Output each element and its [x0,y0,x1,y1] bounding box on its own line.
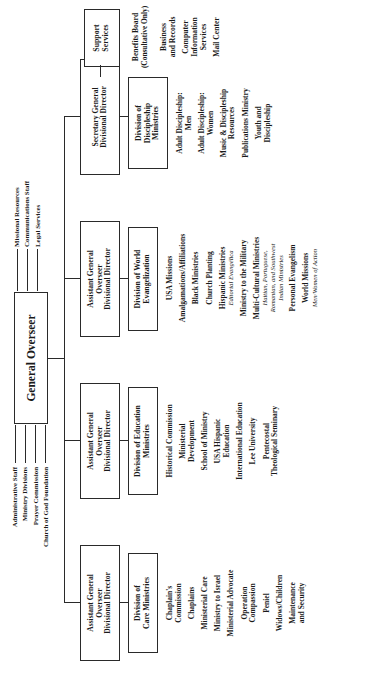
staff-item-church-of-god-foundation: Church of God Foundation [41,467,51,587]
node-officer-care[interactable]: Assistant General Overseer Divisional Di… [80,545,120,661]
support-header: Benefits Board (Consultative Only) [132,1,149,73]
list-item[interactable]: Multi-Cultural Ministries Haitian, Portu… [253,207,284,349]
division-care-title-line2: Care Ministries [143,577,152,629]
list-item[interactable]: USA Missions [166,207,175,349]
list-item[interactable]: Adult Discipleship: Women [198,59,215,187]
list-item[interactable]: Mail Center [213,1,222,73]
list-item[interactable]: Ministerial Care [201,535,210,671]
org-chart: General Overseer Administrative Staff Mi… [0,0,370,679]
list-item[interactable]: Black Ministries [192,207,201,349]
staff-item-prayer-commission: Prayer Commission [31,467,41,587]
support-services-title-line2: Services [102,24,111,51]
list-item[interactable]: International Education [236,375,245,507]
division-education-title-line2: Ministries [143,424,152,458]
list-item[interactable]: Publications Ministry [242,59,251,187]
list-item[interactable]: Lee University [249,375,258,507]
list-item[interactable]: Chaplains [188,535,197,671]
node-division-education-ministries[interactable]: Division of Education Ministries [128,387,158,495]
list-item[interactable]: Ministerial Advocate [227,535,236,671]
list-item[interactable]: Peniel [263,535,272,671]
list-item[interactable]: Chaplain's Commission [166,535,183,671]
list-item[interactable]: Historical Commission [166,375,175,507]
list-item[interactable]: Pentecostal Theological Seminary [263,375,280,507]
node-officer-world-evangelization[interactable]: Assistant General Overseer Divisional Di… [80,221,120,337]
benefits-board-note: (Consultative Only) [141,1,150,73]
node-division-world-evangelization[interactable]: Division of World Evangelization [128,227,158,331]
division-discipleship-title-line3: Ministries [152,106,161,140]
list-item[interactable]: USA Hispanic Education [214,375,231,507]
list-item-subtext: Men/Women of Action [311,207,319,349]
officer-discipleship-line2: Divisional Director [100,86,109,148]
list-item[interactable]: School of Ministry [201,375,210,507]
officer-care-line3: Divisional Director [104,572,113,634]
list-item[interactable]: Music & Discipleship Resources [220,59,237,187]
node-general-overseer[interactable]: General Overseer [14,292,48,424]
officer-education-line3: Divisional Director [104,410,113,472]
staff-item-communications-staff: Communications Staff [22,127,32,247]
item-list-world-evangelization: USA Missions Amalgamations/Affiliations … [166,207,323,349]
list-item[interactable]: Youth and Discipleship [255,59,272,187]
division-world-evangelization-title-line2: Evangelization [143,254,152,303]
staff-item-missional-resources: Missional Resources [12,127,22,247]
list-item[interactable]: Computer Information Services [182,1,208,73]
list-item[interactable]: Ministry to the Military [240,207,249,349]
list-item[interactable]: Church Planting [206,207,215,349]
list-item-subtext: Indian Ministries [277,207,285,349]
staff-item-ministry-divisions: Ministry Divisions [20,467,30,587]
node-support-services[interactable]: Support Services [84,9,120,67]
list-item[interactable]: Ministry to Israel [214,535,223,671]
chart-rotation-wrapper: General Overseer Administrative Staff Mi… [0,0,370,679]
list-item[interactable]: Personal Evangelism [289,207,298,349]
item-list-discipleship-ministries: Adult Discipleship: Men Adult Disciplesh… [176,59,277,187]
staff-list-left: Administrative Staff Ministry Divisions … [10,467,51,587]
node-officer-education[interactable]: Assistant General Overseer Divisional Di… [80,383,120,499]
list-item[interactable]: Maintenance and Security [289,535,306,671]
list-item[interactable]: Widows/Children [276,535,285,671]
item-list-education-ministries: Historical Commission Ministerial Develo… [166,375,284,507]
staff-list-right: Missional Resources Communications Staff… [12,127,43,247]
list-item[interactable]: Hispanic Ministries Editorial Evangélica [219,207,235,349]
item-list-care-ministries: Chaplain's Commission Chaplains Minister… [166,535,311,671]
list-item[interactable]: World Missions Men/Women of Action [302,207,318,349]
general-overseer-label: General Overseer [25,314,38,401]
officer-world-evangelization-line3: Divisional Director [104,248,113,310]
list-item-subtext: Haitian, Portuguese, [261,207,269,349]
node-division-care-ministries[interactable]: Division of Care Ministries [128,553,158,653]
list-item[interactable]: Adult Discipleship: Men [176,59,193,187]
list-item[interactable]: Ministerial Development [179,375,196,507]
staff-item-legal-services: Legal Services [33,127,43,247]
list-item[interactable]: Business and Records [160,1,178,73]
list-item-subtext: Editorial Evangélica [227,207,235,349]
item-list-support-services: Benefits Board (Consultative Only) Busin… [132,1,226,73]
list-item-subtext: Romanian, and Southwest [269,207,277,349]
list-item[interactable]: Amalgamations/Affiliations [179,207,188,349]
node-division-discipleship-ministries[interactable]: Division of Discipleship Ministries [128,77,168,169]
staff-item-administrative-staff: Administrative Staff [10,467,20,587]
list-item[interactable]: Operation Compassion [241,535,258,671]
